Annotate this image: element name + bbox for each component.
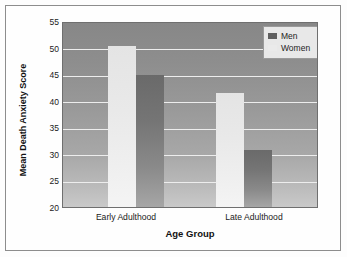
legend[interactable]: Men Women (263, 26, 318, 59)
plot-area: Men Women (62, 22, 318, 208)
x-tick-label-early-adulthood: Early Adulthood (62, 212, 190, 222)
y-axis-tick-labels: 55 50 45 40 35 30 25 20 (33, 22, 59, 208)
gridline (63, 182, 317, 183)
bar-men-late-adulthood[interactable] (216, 93, 244, 207)
legend-label-women: Women (281, 43, 310, 53)
legend-item-women[interactable]: Women (268, 42, 314, 53)
y-tick-label: 45 (37, 71, 59, 80)
bar-men-early-adulthood[interactable] (108, 46, 136, 207)
gridline (63, 129, 317, 130)
y-tick-label: 25 (37, 177, 59, 186)
y-tick-label: 40 (37, 97, 59, 106)
y-tick-label: 30 (37, 150, 59, 159)
y-tick-label: 20 (37, 204, 59, 213)
gridline (63, 102, 317, 103)
legend-item-men[interactable]: Men (268, 30, 314, 41)
gridline (63, 155, 317, 156)
gridline (63, 76, 317, 77)
bar-women-early-adulthood[interactable] (136, 75, 164, 207)
x-axis-title: Age Group (62, 228, 318, 239)
y-tick-label: 50 (37, 44, 59, 53)
men-swatch-icon (268, 33, 277, 39)
x-tick-label-late-adulthood: Late Adulthood (190, 212, 318, 222)
y-axis-title: Mean Death Anxiety Score (18, 45, 28, 195)
chart-figure: 55 50 45 40 35 30 25 20 Mean Death Anxie… (0, 0, 347, 257)
legend-label-men: Men (281, 31, 298, 41)
y-tick-label: 35 (37, 124, 59, 133)
women-swatch-icon (268, 45, 277, 51)
y-tick-label: 55 (37, 18, 59, 27)
bar-women-late-adulthood[interactable] (244, 150, 272, 207)
